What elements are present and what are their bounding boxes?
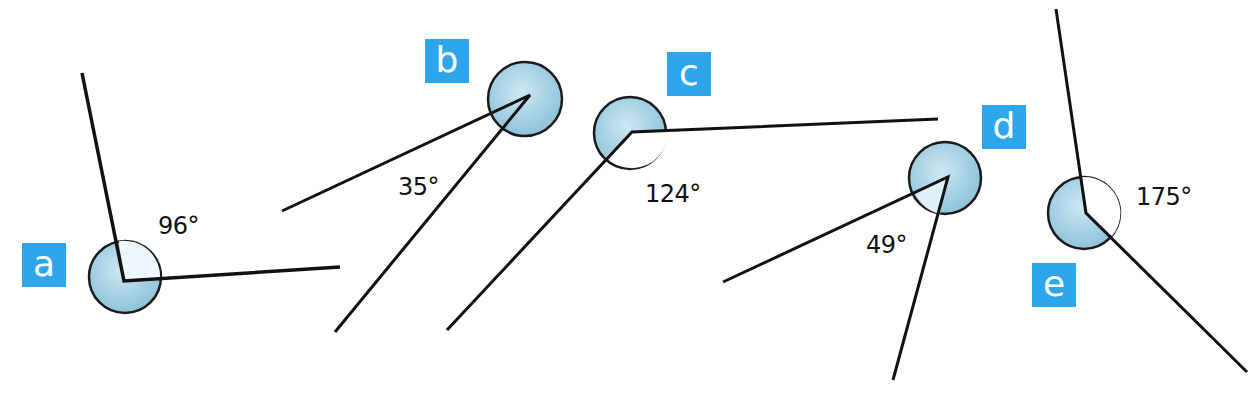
angle-label-a: a: [22, 243, 66, 287]
angle-label-d: d: [982, 105, 1026, 149]
angle-d-rays: [723, 177, 948, 380]
angle-c-rays: [447, 119, 938, 330]
angle-value-c: 124°: [645, 180, 701, 208]
angle-label-c: c: [667, 52, 711, 96]
angle-a: [82, 73, 340, 313]
angle-label-e: e: [1032, 263, 1076, 307]
angle-label-b: b: [425, 39, 469, 83]
angle-value-e: 175°: [1136, 183, 1192, 211]
angles-diagram: [0, 0, 1253, 397]
angle-value-b: 35°: [398, 173, 439, 201]
angle-a-arc-unshaded: [119, 241, 160, 281]
angle-d: [723, 142, 981, 380]
angle-b-rays: [282, 95, 530, 332]
angle-value-d: 49°: [866, 231, 907, 259]
angle-value-a: 96°: [158, 212, 199, 240]
